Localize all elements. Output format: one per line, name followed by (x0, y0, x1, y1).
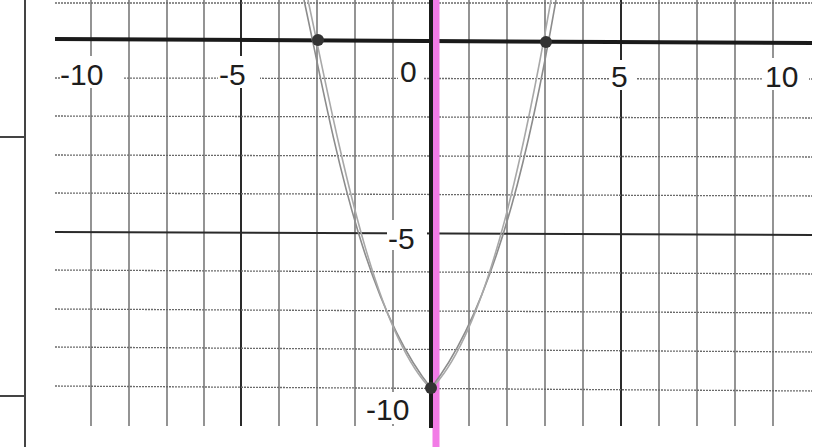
x-tick-label-neg10: -10 (60, 58, 103, 91)
x-tick-label-10: 10 (765, 60, 798, 93)
x-tick-label-5: 5 (611, 60, 628, 93)
graph-paper: -10 -5 0 5 10 -5 -10 (0, 0, 828, 447)
x-tick-label-0: 0 (400, 55, 417, 88)
x-intercept-left-point (312, 34, 324, 46)
x-intercept-right-point (540, 36, 552, 48)
left-frame (0, 0, 25, 447)
y-tick-label-neg10: -10 (366, 393, 409, 426)
x-tick-label-neg5: -5 (219, 58, 246, 91)
vertex-point (425, 382, 437, 394)
y-tick-label-neg5: -5 (388, 222, 415, 255)
coordinate-plane: -10 -5 0 5 10 -5 -10 (0, 0, 828, 447)
